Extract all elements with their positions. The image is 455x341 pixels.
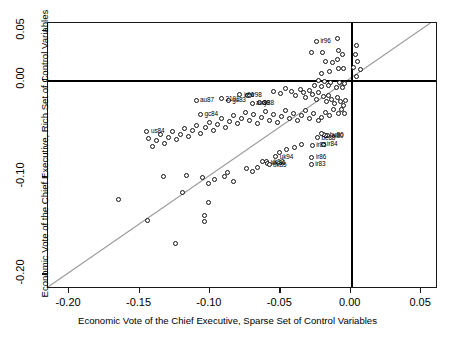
data-point (267, 118, 272, 123)
data-point (319, 71, 324, 76)
data-point (316, 78, 321, 83)
data-point (116, 197, 121, 202)
data-point-label: ir96 (320, 38, 330, 44)
data-point (194, 98, 199, 103)
data-point (146, 136, 151, 141)
x-axis-tick-label: -0.15 (109, 296, 169, 308)
data-point (162, 141, 167, 146)
data-point-label: y88 (264, 100, 274, 106)
data-point-label: au87 (200, 97, 214, 103)
data-point (250, 101, 255, 106)
data-point-label: ir83 (315, 161, 325, 167)
data-point (178, 132, 183, 137)
data-point (154, 138, 159, 143)
data-point (244, 166, 249, 171)
data-point (259, 115, 264, 120)
y-axis-tick-label: -0.10 (14, 155, 26, 195)
data-point (323, 110, 328, 115)
data-point (309, 162, 314, 167)
y-axis-tick-label: -0.20 (14, 252, 26, 292)
data-point (200, 175, 205, 180)
data-point (145, 218, 150, 223)
data-point (335, 36, 340, 41)
data-point (173, 241, 178, 246)
data-point (283, 108, 288, 113)
data-point (340, 85, 345, 90)
data-point (166, 135, 171, 140)
data-point (287, 116, 292, 121)
data-point (327, 69, 332, 74)
y-axis-tick-label: 0.05 (14, 9, 26, 49)
data-point-label: bu80 (330, 132, 344, 138)
data-point (211, 128, 216, 133)
data-point (198, 112, 203, 117)
data-point (340, 52, 345, 57)
data-point (299, 142, 304, 147)
y-axis-tick-label: 0.00 (14, 58, 26, 98)
data-point (330, 60, 335, 65)
data-point (320, 50, 325, 55)
x-axis-tick-label: 0.05 (390, 296, 450, 308)
data-point (354, 43, 359, 48)
data-point (326, 83, 331, 88)
data-point (207, 120, 212, 125)
x-axis-tick (139, 288, 140, 293)
data-point (314, 97, 319, 102)
data-point (299, 113, 304, 118)
plot-area: ir96au872101gc83ir96ir98au89y88gc84us84b… (47, 22, 437, 288)
data-point (324, 99, 329, 104)
data-point-label: ir85 (316, 142, 326, 148)
data-point (150, 144, 155, 149)
y-axis-title: Economic Vote of the Chief Executive, Ri… (39, 18, 50, 298)
data-point-label: ir84 (327, 141, 337, 147)
data-point (255, 165, 260, 170)
data-point (275, 120, 280, 125)
x-axis-tick-label: -0.10 (179, 296, 239, 308)
data-point (291, 111, 296, 116)
data-point (223, 125, 228, 130)
x-axis-tick (420, 288, 421, 293)
data-point (334, 85, 339, 90)
data-point (227, 119, 232, 124)
plot-clip-region: ir96au872101gc83ir96ir98au89y88gc84us84b… (48, 23, 436, 287)
data-point (355, 59, 360, 64)
x-axis-tick (209, 288, 210, 293)
x-axis-tick (279, 288, 280, 293)
x-axis-tick-label: -0.05 (249, 296, 309, 308)
x-axis-tick (350, 288, 351, 293)
data-point (314, 39, 319, 44)
y-zero-reference-line (48, 80, 436, 82)
data-point (303, 108, 308, 113)
x-axis-tick (68, 288, 69, 293)
data-point (307, 116, 312, 121)
data-point (316, 118, 321, 123)
data-point-label: us84 (151, 128, 164, 134)
data-point-label: ir98 (252, 92, 262, 98)
data-point (231, 179, 236, 184)
x-axis-tick-label: 0.00 (320, 296, 380, 308)
data-point-label: uk85 (273, 162, 286, 168)
data-point (323, 59, 328, 64)
x-axis-title: Economic Vote of the Chief Executive, Sp… (0, 315, 455, 326)
data-point (271, 112, 276, 117)
scatter-plot-figure: ir96au872101gc83ir96ir98au89y88gc84us84b… (0, 0, 455, 341)
identity-reference-line (48, 23, 436, 287)
data-point (255, 121, 260, 126)
data-point-label: gc84 (204, 111, 217, 117)
data-point (358, 67, 363, 72)
data-point (202, 219, 207, 224)
data-point (239, 116, 244, 121)
data-point (310, 143, 315, 148)
x-axis-tick-label: -0.20 (38, 296, 98, 308)
data-point (250, 169, 255, 174)
data-point (354, 74, 359, 79)
data-point (215, 122, 220, 127)
data-point-label: gc83 (232, 97, 245, 103)
data-point (353, 52, 358, 57)
x-zero-reference-line (351, 23, 353, 287)
data-point (203, 125, 208, 130)
